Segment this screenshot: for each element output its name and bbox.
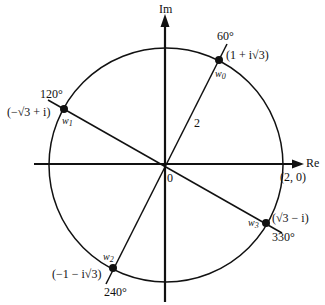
root-point-w0 — [215, 56, 223, 64]
real-intercept-label: (2, 0) — [280, 170, 306, 184]
radius-label: 2 — [194, 116, 200, 130]
value-label-w2: (−1 − i√3) — [52, 267, 101, 281]
angle-label-w2: 240° — [104, 285, 127, 299]
root-point-w2 — [109, 264, 117, 272]
imag-axis-label: Im — [159, 2, 173, 16]
root-label-w1: w1 — [62, 115, 73, 128]
real-axis-label: Re — [306, 156, 319, 170]
angle-label-w3: 330° — [272, 230, 295, 244]
value-label-w0: (1 + i√3) — [226, 48, 269, 62]
angle-label-w1: 120° — [40, 87, 63, 101]
value-label-w3: (√3 − i) — [272, 211, 309, 225]
angle-label-w0: 60° — [217, 29, 234, 43]
origin-label: 0 — [167, 171, 173, 185]
root-label-w2: w2 — [103, 251, 114, 264]
root-point-w1 — [60, 105, 68, 113]
real-axis-arrow-icon — [292, 160, 304, 169]
complex-plane-diagram: Im Re 0 (2, 0) 2 60° (1 + i√3) w0 120° (… — [0, 0, 325, 305]
value-label-w1: (−√3 + i) — [7, 105, 50, 119]
root-point-w3 — [262, 219, 270, 227]
root-label-w0: w0 — [215, 68, 226, 81]
